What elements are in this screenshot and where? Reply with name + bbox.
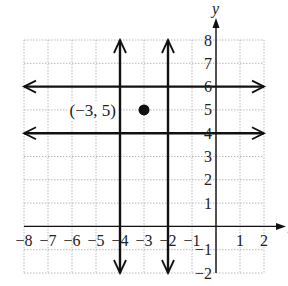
y-tick-label: 7: [204, 55, 212, 72]
y-tick-label: 5: [204, 101, 212, 118]
x-tick-label: −4: [111, 232, 128, 249]
point-dot-icon: [139, 104, 150, 115]
y-axis-label: y: [210, 0, 220, 18]
y-tick-label: 6: [204, 78, 212, 95]
y-axis-arrow-icon: [213, 18, 220, 28]
y-tick-label: −2: [195, 265, 212, 282]
x-tick-label: −7: [39, 232, 56, 249]
x-tick-label: −8: [15, 232, 32, 249]
x-axis-arrow-icon: [276, 223, 286, 230]
y-tick-label: 8: [204, 32, 212, 49]
x-tick-label: −6: [63, 232, 80, 249]
y-tick-label: 2: [204, 171, 212, 188]
y-tick-label: −1: [195, 241, 212, 258]
y-tick-label: 1: [204, 195, 212, 212]
x-tick-label: 1: [236, 232, 244, 249]
x-tick-label: 2: [260, 232, 268, 249]
x-tick-label: −3: [135, 232, 152, 249]
coordinate-plane: −8−7−6−5−4−3−2−11287654321−1−2 (−3, 5) x…: [0, 0, 288, 286]
x-axis-label: x: [287, 219, 288, 236]
y-tick-label: 4: [204, 125, 212, 142]
plotted-point: (−3, 5): [68, 101, 150, 120]
y-tick-label: 3: [204, 148, 212, 165]
x-tick-label: −5: [87, 232, 104, 249]
x-tick-label: −2: [159, 232, 176, 249]
point-label: (−3, 5): [70, 101, 116, 120]
